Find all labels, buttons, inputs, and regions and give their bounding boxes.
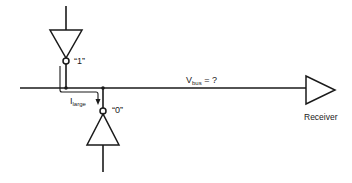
- current-arrowhead-icon: [96, 99, 101, 105]
- bus-contention-diagram: “1” Ilarge “0” Vbus = ? Receiver: [0, 0, 352, 183]
- top-inverter-bubble-icon: [63, 58, 69, 64]
- top-driver-output-label: “1”: [74, 56, 85, 66]
- top-inverter-triangle-icon: [50, 30, 82, 58]
- receiver-buffer-icon: [306, 76, 335, 104]
- bus-voltage-label: Vbus = ?: [186, 75, 217, 86]
- current-label: Ilarge: [70, 96, 87, 107]
- top-driver: [50, 6, 82, 90]
- bottom-inverter-triangle-icon: [87, 114, 119, 145]
- bottom-driver-output-label: “0”: [112, 105, 123, 115]
- receiver-label: Receiver: [304, 112, 338, 122]
- bottom-driver: [87, 86, 119, 172]
